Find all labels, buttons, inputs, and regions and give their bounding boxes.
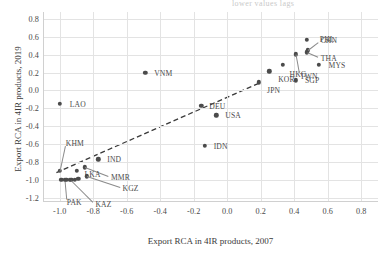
x-axis-tick-label: -1.0: [53, 207, 66, 216]
x-axis-title: Export RCA in 4IR products, 2007: [43, 236, 378, 246]
y-axis-tick-label: 0.6: [0, 32, 39, 41]
y-axis-tick-label: -0.2: [0, 104, 39, 113]
x-axis-tick-label: -0.8: [87, 207, 100, 216]
y-axis-tick-label: -1.0: [0, 175, 39, 184]
x-axis-tick-label: 0.6: [322, 207, 333, 216]
grid-line-vertical: [227, 12, 228, 202]
data-point-label: IND: [107, 155, 121, 164]
data-point-label: MMR: [111, 173, 130, 182]
data-point-label: KHM: [66, 138, 84, 147]
y-axis-tick-label: -1.2: [0, 193, 39, 202]
data-point-label: JPN: [267, 86, 280, 95]
data-point-label: PAK: [67, 197, 82, 206]
x-axis-tick-label: -0.4: [154, 207, 167, 216]
x-axis-tick-label: 0.0: [222, 207, 233, 216]
data-point-label: USA: [225, 111, 241, 120]
x-axis-tick-label: -0.2: [187, 207, 200, 216]
plot-area: LAOKHMINDMMRLKAKGZPAKKAZVNMDEUUSAIDNJPNK…: [43, 12, 378, 202]
y-axis-tick-label: 0.4: [0, 50, 39, 59]
grid-line-vertical: [261, 12, 262, 202]
x-axis-tick-label: -0.6: [120, 207, 133, 216]
scatter-chart-figure: lower values lags LAOKHMINDMMRLKAKGZPAKK…: [0, 0, 391, 259]
x-axis-tick-label: 0.2: [255, 207, 266, 216]
x-axis-tick-label: 0.8: [356, 207, 367, 216]
y-axis-line: [43, 12, 44, 202]
data-point-label: DEU: [209, 101, 225, 110]
y-axis-tick-label: -0.8: [0, 157, 39, 166]
y-axis-tick-label: 0.8: [0, 15, 39, 24]
x-axis-tick-label: 0.4: [289, 207, 300, 216]
data-point-label: IDN: [214, 141, 228, 150]
y-axis-tick-label: 0.2: [0, 68, 39, 77]
data-point-label: THA: [321, 54, 337, 63]
data-point-label: PHL: [320, 35, 335, 44]
grid-line-vertical: [361, 12, 362, 202]
data-point-label: TWN: [300, 72, 318, 81]
y-axis-tick-label: 0.0: [0, 86, 39, 95]
grid-line-vertical: [160, 12, 161, 202]
y-axis-tick-label: -0.4: [0, 122, 39, 131]
data-point-label: VNM: [154, 68, 172, 77]
data-point-label: LAO: [70, 99, 86, 108]
grid-line-vertical: [60, 12, 61, 202]
y-axis-tick-label: -0.6: [0, 140, 39, 149]
grid-line-vertical: [194, 12, 195, 202]
top-clipped-text: lower values lags: [232, 0, 382, 8]
data-point-label: KGZ: [123, 184, 139, 193]
grid-line-vertical: [294, 12, 295, 202]
